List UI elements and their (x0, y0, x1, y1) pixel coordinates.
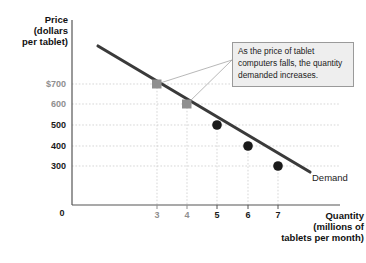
data-point-4-600 (182, 100, 192, 109)
x-axis-title-line3: tablets per month) (281, 232, 364, 243)
gridlines-vertical (157, 84, 278, 205)
gridlines-horizontal (72, 84, 340, 166)
data-point-7-300 (273, 161, 283, 171)
y-tick-label-700: $700 (22, 79, 66, 89)
x-axis-title-line2: (millions of (313, 221, 364, 232)
x-tick-label-4: 4 (177, 210, 197, 220)
y-tick-label-400: 400 (22, 141, 66, 151)
x-tick-label-5: 5 (207, 210, 227, 220)
x-tick-label-3: 3 (147, 210, 167, 220)
data-point-6-400 (243, 141, 253, 151)
x-axis-tick-marks (157, 205, 278, 209)
y-axis-title-line2: (dollars (34, 25, 68, 36)
demand-curve-figure: Price(dollarsper tablet) $700 600 500 40… (0, 0, 366, 263)
demand-curve-label: Demand (312, 172, 348, 183)
y-tick-label-500: 500 (22, 120, 66, 130)
annotation-callout-text: As the price of tablet computers falls, … (238, 46, 352, 82)
y-axis-title-line1: Price (45, 14, 68, 25)
y-axis-title: Price(dollarsper tablet) (2, 14, 68, 48)
callout-leader-lines (157, 60, 232, 104)
x-axis-title: Quantity(millions oftablets per month) (243, 210, 364, 244)
x-axis-title-line1: Quantity (325, 210, 364, 221)
data-point-5-500 (212, 120, 222, 130)
y-tick-label-300: 300 (22, 161, 66, 171)
origin-label: 0 (52, 208, 72, 219)
y-axis-title-line3: per tablet) (22, 36, 68, 47)
data-point-3-700 (152, 80, 162, 89)
y-tick-label-600: 600 (22, 99, 66, 109)
